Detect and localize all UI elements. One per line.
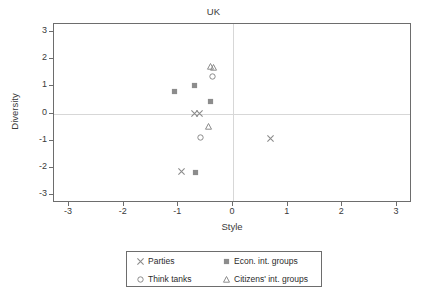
plot-area — [53, 23, 411, 202]
x-tick-label: -3 — [48, 206, 88, 216]
x-marker-icon — [195, 109, 204, 118]
circle-marker-icon — [208, 72, 217, 81]
square-marker-icon — [221, 257, 232, 266]
square-marker-icon — [191, 168, 200, 177]
y-tick-label: -2 — [15, 161, 47, 173]
triangle-marker-icon — [221, 275, 232, 284]
y-tick-label: 2 — [15, 52, 47, 64]
legend-entry: Think tanks — [127, 274, 213, 284]
y-tick-label: 3 — [15, 25, 47, 37]
data-point — [191, 168, 200, 177]
data-point — [196, 133, 205, 142]
legend-entry-label: Citizens' int. groups — [232, 274, 308, 284]
square-marker-icon — [190, 81, 199, 90]
y-tick-label: -1 — [15, 134, 47, 146]
data-point — [206, 97, 215, 106]
x-marker-icon — [177, 167, 186, 176]
legend-entry-label: Think tanks — [146, 274, 191, 284]
x-tick-label: 2 — [321, 206, 361, 216]
y-tick-label: 0 — [15, 107, 47, 119]
x-marker-icon — [266, 134, 275, 143]
square-marker-icon — [206, 97, 215, 106]
x-tick-label: 3 — [376, 206, 416, 216]
data-point — [209, 63, 218, 72]
y-tick-label: 1 — [15, 79, 47, 91]
triangle-marker-icon — [204, 122, 213, 131]
data-point — [208, 72, 217, 81]
square-marker-icon — [170, 87, 179, 96]
x-tick-label: -1 — [157, 206, 197, 216]
x-tick-label: -2 — [103, 206, 143, 216]
data-point — [190, 81, 199, 90]
circle-marker-icon — [196, 133, 205, 142]
legend-entry: Parties — [127, 256, 213, 266]
legend: PartiesEcon. int. groupsThink tanksCitiz… — [126, 251, 322, 287]
x-tick-label: 0 — [212, 206, 252, 216]
data-point — [266, 134, 275, 143]
data-point — [195, 109, 204, 118]
data-points-layer — [54, 24, 410, 201]
y-tick-label: -3 — [15, 188, 47, 200]
x-tick-label: 1 — [267, 206, 307, 216]
legend-entry-label: Parties — [146, 256, 174, 266]
scatter-plot-figure: UK Diversity 3210-1-2-3 -3-2-10123 Style… — [0, 0, 427, 297]
data-point — [177, 167, 186, 176]
triangle-marker-icon — [209, 63, 218, 72]
circle-marker-icon — [135, 275, 146, 284]
data-point — [170, 87, 179, 96]
data-point — [204, 122, 213, 131]
x-axis-label: Style — [53, 221, 411, 232]
legend-entry: Econ. int. groups — [213, 256, 323, 266]
legend-entry-label: Econ. int. groups — [232, 256, 298, 266]
chart-title: UK — [0, 6, 427, 17]
legend-entry: Citizens' int. groups — [213, 274, 323, 284]
x-marker-icon — [135, 257, 146, 266]
